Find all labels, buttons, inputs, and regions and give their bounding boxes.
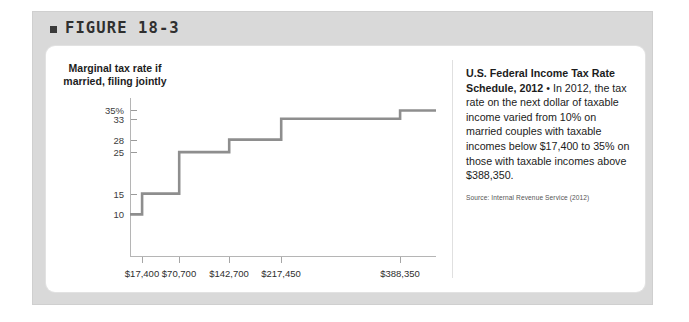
step-path	[130, 111, 436, 215]
caption-text: U.S. Federal Income Tax Rate Schedule, 2…	[466, 66, 632, 183]
x-tick	[281, 257, 282, 263]
x-tick-label: $142,700	[209, 268, 249, 279]
x-tick	[400, 257, 401, 263]
x-tick	[179, 257, 180, 263]
y-tick-label: 15	[84, 190, 124, 199]
x-tick-label: $17,400	[125, 268, 159, 279]
x-tick-label: $217,450	[261, 268, 301, 279]
x-tick-label: $388,350	[380, 268, 420, 279]
y-tick-label: 10	[84, 210, 124, 219]
chart-region: Marginal tax rate if married, filing joi…	[46, 46, 442, 292]
x-tick	[229, 257, 230, 263]
figure-title: FIGURE 18-3	[65, 19, 180, 37]
caption-body-text: • In 2012, the tax rate on the next doll…	[466, 82, 629, 182]
y-tick-label: 28	[84, 136, 124, 145]
square-bullet-icon	[50, 26, 57, 33]
tax-rate-step-line	[130, 98, 436, 256]
x-axis-line	[130, 256, 436, 257]
figure-card: Marginal tax rate if married, filing joi…	[46, 46, 645, 292]
panel-divider	[452, 60, 453, 278]
caption-source: Source: Internal Revenue Service (2012)	[466, 194, 632, 201]
plot-area: 35%3328251510 $17,400$70,700$142,700$217…	[130, 98, 436, 256]
figure-panel: FIGURE 18-3 Marginal tax rate if married…	[32, 11, 653, 305]
figure-header: FIGURE 18-3	[50, 19, 180, 37]
x-tick-label: $70,700	[162, 268, 196, 279]
y-tick-label: 33	[84, 115, 124, 124]
caption-panel: U.S. Federal Income Tax Rate Schedule, 2…	[466, 66, 632, 201]
y-tick-label: 25	[84, 148, 124, 157]
x-tick	[142, 257, 143, 263]
y-axis-title: Marginal tax rate if married, filing joi…	[60, 62, 170, 87]
